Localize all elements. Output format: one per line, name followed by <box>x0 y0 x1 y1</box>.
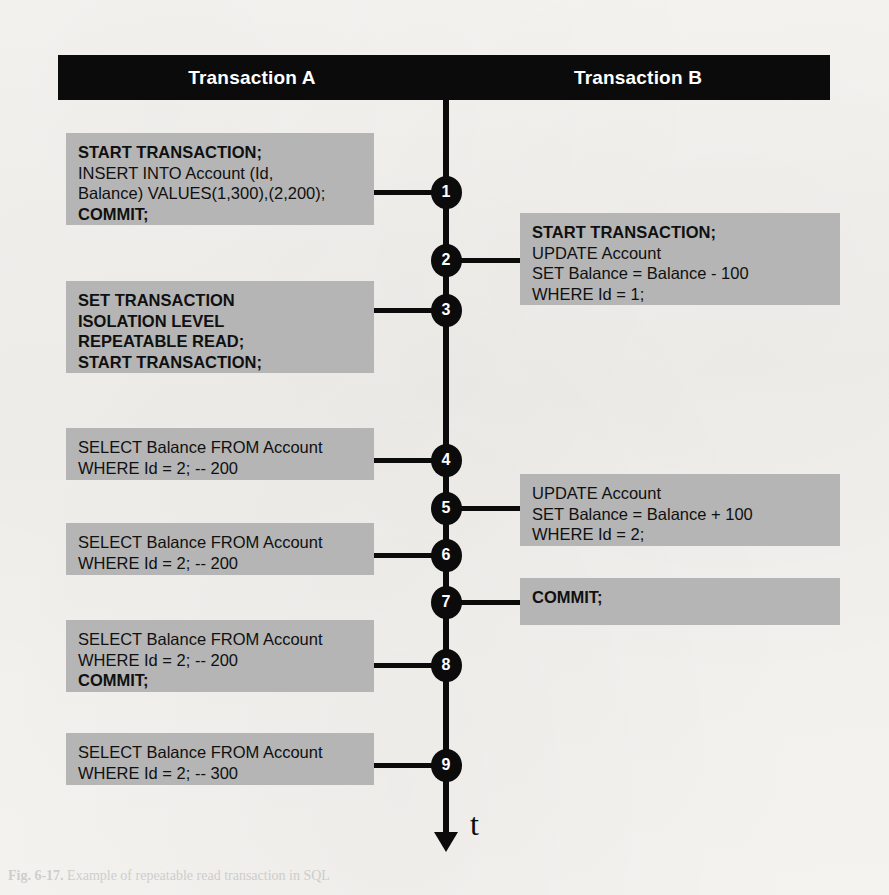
figure-caption-text: Example of repeatable read transaction i… <box>67 868 330 883</box>
sql-line: COMMIT; <box>78 204 362 225</box>
sql-line: START TRANSACTION; <box>78 352 362 373</box>
sql-line: WHERE Id = 1; <box>532 284 828 305</box>
timeline-step-node: 8 <box>431 649 462 682</box>
sql-line: COMMIT; <box>78 670 362 691</box>
sql-line: SELECT Balance FROM Account <box>78 742 362 763</box>
transaction-timeline-figure: Transaction A Transaction B t START TRAN… <box>0 0 889 895</box>
step-connector <box>374 763 435 768</box>
sql-line: SET Balance = Balance - 100 <box>532 263 828 284</box>
sql-line: SET TRANSACTION <box>78 290 362 311</box>
timeline-step-node: 4 <box>431 444 462 477</box>
sql-step-box: START TRANSACTION;INSERT INTO Account (I… <box>66 133 374 225</box>
step-connector <box>458 506 521 511</box>
sql-line: START TRANSACTION; <box>532 222 828 243</box>
column-header-transaction-a: Transaction A <box>58 55 446 100</box>
sql-step-box: SELECT Balance FROM AccountWHERE Id = 2;… <box>66 620 374 692</box>
sql-line: WHERE Id = 2; -- 300 <box>78 763 362 784</box>
sql-step-box: SELECT Balance FROM AccountWHERE Id = 2;… <box>66 428 374 480</box>
step-connector <box>374 190 435 195</box>
step-connector <box>374 663 435 668</box>
sql-line: ISOLATION LEVEL <box>78 311 362 332</box>
timeline-arrowhead <box>434 832 458 852</box>
step-connector <box>374 458 435 463</box>
step-connector <box>458 258 521 263</box>
sql-line: WHERE Id = 2; -- 200 <box>78 553 362 574</box>
sql-step-box: COMMIT; <box>520 578 840 625</box>
timeline-step-node: 7 <box>431 586 462 619</box>
step-connector <box>374 308 435 313</box>
timeline-step-node: 6 <box>431 539 462 572</box>
sql-line: SELECT Balance FROM Account <box>78 532 362 553</box>
sql-line: Balance) VALUES(1,300),(2,200); <box>78 183 362 204</box>
sql-line: COMMIT; <box>532 587 828 608</box>
column-header-bar: Transaction A Transaction B <box>58 55 830 100</box>
sql-line: REPEATABLE READ; <box>78 331 362 352</box>
timeline-step-node: 1 <box>431 176 462 209</box>
timeline-step-node: 5 <box>431 492 462 525</box>
sql-step-box: SELECT Balance FROM AccountWHERE Id = 2;… <box>66 733 374 785</box>
sql-step-box: START TRANSACTION;UPDATE AccountSET Bala… <box>520 213 840 305</box>
step-connector <box>458 600 521 605</box>
timeline-axis-label: t <box>470 806 479 843</box>
timeline-step-node: 9 <box>431 749 462 782</box>
timeline-step-node: 3 <box>431 294 462 327</box>
sql-line: WHERE Id = 2; <box>532 524 828 545</box>
figure-caption-label: Fig. 6-17. <box>8 868 64 883</box>
sql-line: WHERE Id = 2; -- 200 <box>78 650 362 671</box>
sql-line: UPDATE Account <box>532 483 828 504</box>
step-connector <box>374 553 435 558</box>
sql-line: START TRANSACTION; <box>78 142 362 163</box>
sql-step-box: UPDATE AccountSET Balance = Balance + 10… <box>520 474 840 546</box>
figure-caption: Fig. 6-17. Example of repeatable read tr… <box>8 868 330 884</box>
sql-step-box: SET TRANSACTIONISOLATION LEVELREPEATABLE… <box>66 281 374 373</box>
sql-line: WHERE Id = 2; -- 200 <box>78 458 362 479</box>
sql-line: UPDATE Account <box>532 243 828 264</box>
sql-line: INSERT INTO Account (Id, <box>78 163 362 184</box>
sql-line: SELECT Balance FROM Account <box>78 437 362 458</box>
sql-line: SET Balance = Balance + 100 <box>532 504 828 525</box>
sql-step-box: SELECT Balance FROM AccountWHERE Id = 2;… <box>66 523 374 575</box>
timeline-step-node: 2 <box>431 244 462 277</box>
sql-line: SELECT Balance FROM Account <box>78 629 362 650</box>
column-header-transaction-b: Transaction B <box>446 55 830 100</box>
